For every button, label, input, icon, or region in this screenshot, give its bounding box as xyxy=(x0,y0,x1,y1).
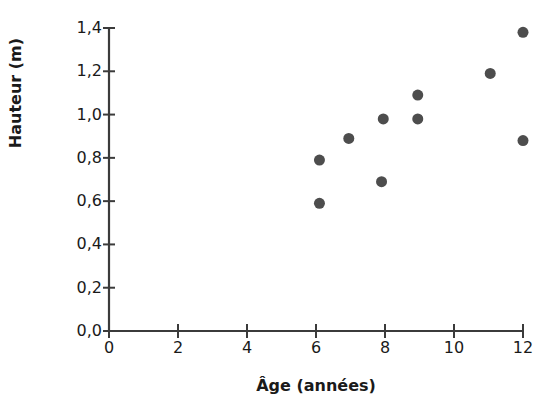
x-tick-label: 4 xyxy=(227,340,267,356)
data-point[interactable] xyxy=(518,27,529,38)
data-point[interactable] xyxy=(314,155,325,166)
y-axis-title: Hauteur (m) xyxy=(3,3,29,183)
y-tick-label: 0,8 xyxy=(48,150,102,166)
y-tick-label: 0,6 xyxy=(48,193,102,209)
y-tick-label: 0,2 xyxy=(48,280,102,296)
y-tick-label: 0,0 xyxy=(48,323,102,339)
data-point[interactable] xyxy=(314,198,325,209)
data-point[interactable] xyxy=(518,135,529,146)
scatter-chart-figure: Hauteur (m) 0,00,20,40,60,81,01,21,4 024… xyxy=(0,0,544,410)
x-tick-label: 0 xyxy=(89,340,129,356)
data-point[interactable] xyxy=(378,113,389,124)
x-tick-label: 6 xyxy=(296,340,336,356)
data-point-group xyxy=(314,27,529,209)
y-tick-label: 0,4 xyxy=(48,236,102,252)
y-tick-label: 1,0 xyxy=(48,107,102,123)
data-point[interactable] xyxy=(485,68,496,79)
data-point[interactable] xyxy=(376,176,387,187)
x-axis-title: Âge (années) xyxy=(109,376,523,395)
y-tick-label: 1,4 xyxy=(48,20,102,36)
data-point[interactable] xyxy=(412,90,423,101)
x-tick-label: 2 xyxy=(158,340,198,356)
y-tick-label: 1,2 xyxy=(48,63,102,79)
x-tick-label: 12 xyxy=(503,340,543,356)
x-tick-label: 10 xyxy=(434,340,474,356)
data-point[interactable] xyxy=(412,113,423,124)
x-tick-label: 8 xyxy=(365,340,405,356)
data-point[interactable] xyxy=(343,133,354,144)
